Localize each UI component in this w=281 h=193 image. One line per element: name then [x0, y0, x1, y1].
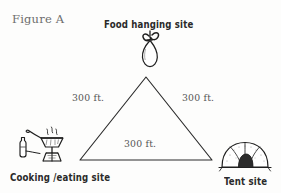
distance-label-left: 300 ft.: [72, 92, 104, 103]
cook-pot: [41, 138, 63, 147]
distance-label-bottom: 300 ft.: [124, 138, 156, 149]
site-label-cooking-eating: Cooking /eating site: [10, 172, 110, 183]
site-label-tent: Tent site: [224, 176, 267, 187]
page-title: Figure A: [12, 12, 64, 26]
site-label-food-hanging: Food hanging site: [104, 19, 193, 30]
fuel-bottle: [20, 138, 40, 158]
steam-lines: [47, 127, 57, 135]
pan-handle: [29, 131, 42, 139]
dome-tent-icon: [219, 143, 271, 172]
figure-a-diagram: Figure A Food hanging site 300 ft. 300 f…: [0, 0, 281, 193]
distance-label-right: 300 ft.: [182, 92, 214, 103]
hanging-food-bag-icon: [142, 31, 158, 67]
camp-stove-pot-icon: [20, 127, 63, 161]
